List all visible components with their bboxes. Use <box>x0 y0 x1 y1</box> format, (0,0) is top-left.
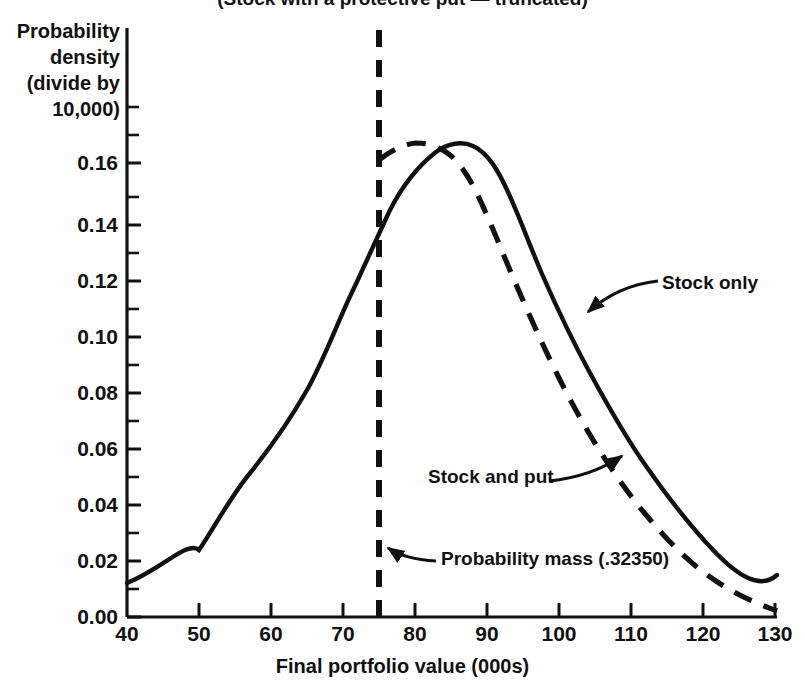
series-stock-only-curve <box>127 143 777 583</box>
leader-arrow-stock-only <box>588 281 658 312</box>
chart-canvas <box>0 0 805 697</box>
axis-lines <box>127 28 777 617</box>
y-major-ticks <box>127 163 141 617</box>
x-major-ticks <box>199 603 775 617</box>
series-stock-and-put-curve <box>379 143 777 611</box>
y-minor-ticks <box>127 107 139 589</box>
chart-figure: (Stock with a protective put — truncated… <box>0 0 805 697</box>
leader-arrow-probability-mass <box>388 548 436 561</box>
